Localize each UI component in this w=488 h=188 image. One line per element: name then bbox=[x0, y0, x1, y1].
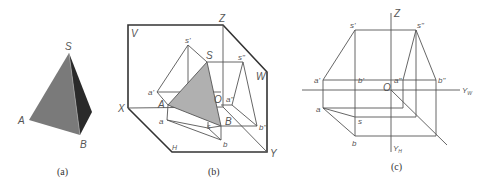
label-A: A bbox=[17, 115, 25, 126]
label-Y-W: YW bbox=[462, 86, 473, 96]
label-a-dprime: a" bbox=[226, 95, 234, 104]
label-s-dprime: s" bbox=[417, 21, 425, 30]
label-Z: Z bbox=[393, 8, 401, 19]
label-a: a bbox=[316, 105, 321, 114]
label-S: S bbox=[206, 50, 213, 61]
label-b-dprime: b" bbox=[259, 123, 267, 132]
label-Y: Y bbox=[270, 148, 278, 159]
label-s-prime: s' bbox=[185, 36, 191, 45]
label-A: A bbox=[157, 99, 165, 110]
label-S: S bbox=[65, 41, 72, 52]
label-s-prime: s' bbox=[350, 21, 356, 30]
label-X: X bbox=[117, 103, 125, 114]
label-b-dprime: b" bbox=[438, 76, 446, 85]
panel-a-pyramid: S A B (a) bbox=[17, 41, 92, 178]
caption-a: (a) bbox=[57, 166, 68, 178]
label-s-dprime: s" bbox=[238, 53, 246, 62]
label-s: s bbox=[207, 123, 211, 130]
label-Z: Z bbox=[218, 13, 226, 24]
label-a-prime: a' bbox=[148, 88, 154, 97]
caption-c: (c) bbox=[391, 161, 402, 173]
label-a-prime: a' bbox=[314, 76, 320, 85]
label-a: a bbox=[159, 117, 164, 126]
label-b-prime: b' bbox=[358, 76, 364, 85]
label-Y-H: YH bbox=[393, 144, 402, 154]
label-s: s bbox=[358, 117, 362, 126]
label-O: O bbox=[214, 94, 222, 105]
label-H: H bbox=[172, 144, 178, 151]
panel-b-projection-box: V Z W X Y H O s' S s" a' A a" B b" a s b… bbox=[117, 13, 278, 178]
label-W: W bbox=[256, 71, 267, 82]
label-B: B bbox=[80, 139, 87, 150]
label-O: O bbox=[383, 82, 391, 93]
label-b: b bbox=[352, 139, 357, 148]
three-view-projection-figure: S A B (a) V Z bbox=[0, 0, 488, 188]
panel-c-three-views: Z s' s" a' b' a" b" O YW a s b YH (c) bbox=[302, 8, 473, 173]
label-V: V bbox=[131, 28, 139, 39]
caption-b: (b) bbox=[208, 166, 220, 178]
label-a-dprime: a" bbox=[394, 76, 402, 85]
label-b: b bbox=[223, 140, 228, 149]
label-B: B bbox=[225, 116, 232, 127]
